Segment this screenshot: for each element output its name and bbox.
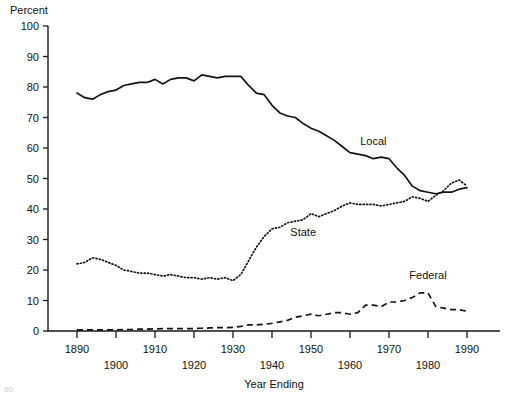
series-line-local bbox=[77, 75, 467, 194]
y-axis-tick-label: 20 bbox=[27, 264, 39, 276]
x-axis-tick-label: 1990 bbox=[455, 343, 479, 355]
series-label-local: Local bbox=[360, 135, 386, 147]
x-axis-tick-label: 1960 bbox=[338, 359, 362, 371]
y-axis-tick-label: 100 bbox=[21, 20, 39, 32]
y-axis-tick-label: 80 bbox=[27, 81, 39, 93]
y-axis-tick-label: 30 bbox=[27, 234, 39, 246]
series-label-federal: Federal bbox=[409, 269, 446, 281]
x-axis-tick-label: 1940 bbox=[260, 359, 284, 371]
y-axis-tick-label: 0 bbox=[33, 325, 39, 337]
y-axis-tick-label: 40 bbox=[27, 203, 39, 215]
x-axis-tick-label: 1920 bbox=[182, 359, 206, 371]
series-line-state bbox=[77, 180, 467, 281]
corner-artifact: 00 bbox=[4, 385, 13, 394]
x-axis-tick-label: 1970 bbox=[377, 343, 401, 355]
x-axis-tick-label: 1930 bbox=[221, 343, 245, 355]
chart-figure: Percent010203040506070809010018901900191… bbox=[0, 0, 521, 398]
x-axis-title: Year Ending bbox=[244, 378, 304, 390]
y-axis-tick-label: 50 bbox=[27, 173, 39, 185]
x-axis-tick-label: 1950 bbox=[299, 343, 323, 355]
x-axis-tick-label: 1900 bbox=[104, 359, 128, 371]
y-axis-tick-label: 10 bbox=[27, 295, 39, 307]
y-axis-tick-label: 70 bbox=[27, 112, 39, 124]
series-label-state: State bbox=[290, 226, 316, 238]
y-axis-tick-label: 60 bbox=[27, 142, 39, 154]
x-axis-tick-label: 1910 bbox=[143, 343, 167, 355]
series-line-federal bbox=[77, 293, 467, 330]
y-axis-unit-label: Percent bbox=[10, 4, 48, 16]
x-axis-tick-label: 1980 bbox=[416, 359, 440, 371]
x-axis-tick-label: 1890 bbox=[65, 343, 89, 355]
line-chart-canvas: Percent010203040506070809010018901900191… bbox=[0, 0, 521, 398]
y-axis-tick-label: 90 bbox=[27, 51, 39, 63]
chart-axes bbox=[48, 26, 500, 331]
